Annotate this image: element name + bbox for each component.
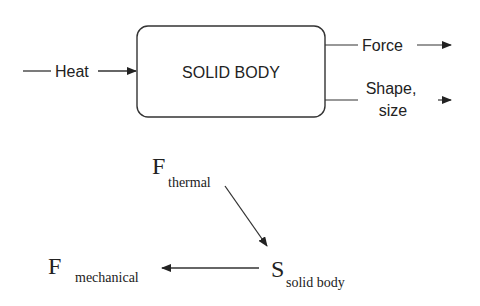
solid-body-label: SOLID BODY (182, 64, 280, 81)
f-mechanical-sub: mechanical (75, 270, 139, 285)
s-solid-main: S (271, 256, 284, 282)
f-thermal-sub: thermal (168, 175, 211, 190)
heat-label: Heat (55, 63, 89, 80)
f-thermal-main: F (152, 153, 165, 179)
thermal-to-solid-arrow (225, 186, 267, 246)
diagram-canvas: Heat SOLID BODY Force Shape, size F ther… (0, 0, 480, 306)
force-label: Force (362, 37, 403, 54)
s-solid-sub: solid body (286, 275, 345, 290)
f-mechanical-main: F (48, 253, 61, 279)
shape-label-line2: size (379, 102, 408, 119)
shape-label-line1: Shape, (366, 80, 417, 97)
